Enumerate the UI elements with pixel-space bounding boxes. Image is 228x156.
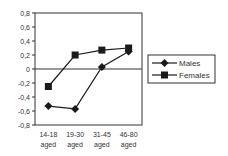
series-females — [45, 45, 132, 91]
line-chart: 0,80,60,40,20-0,2-0,4-0,6-0,8 14-18aged1… — [0, 0, 228, 156]
series-males — [44, 48, 132, 113]
y-tick-label: -0,2 — [18, 80, 30, 87]
legend-label: Females — [179, 71, 210, 80]
square-marker — [72, 52, 79, 59]
x-axis: 14-18aged19-30aged31-45aged46-80aged — [39, 131, 137, 149]
y-axis: 0,80,60,40,20-0,2-0,4-0,6-0,8 — [18, 10, 35, 129]
x-tick-label: 14-18 — [39, 131, 57, 138]
series-line — [48, 52, 128, 109]
square-marker — [125, 45, 132, 52]
y-tick-label: 0,8 — [20, 10, 30, 17]
legend-square-icon — [161, 72, 168, 79]
square-marker — [98, 47, 105, 54]
y-tick-label: 0,4 — [20, 38, 30, 45]
x-tick-sublabel: aged — [41, 141, 57, 149]
x-tick-label: 46-80 — [120, 131, 138, 138]
y-tick-label: 0,2 — [20, 52, 30, 59]
x-tick-sublabel: aged — [67, 141, 83, 149]
legend-label: Males — [179, 59, 200, 68]
y-tick-label: -0,8 — [18, 122, 30, 129]
diamond-marker — [98, 63, 106, 71]
y-tick-label: -0,4 — [18, 94, 30, 101]
y-tick-label: -0,6 — [18, 108, 30, 115]
y-tick-label: 0,6 — [20, 24, 30, 31]
x-tick-label: 31-45 — [93, 131, 111, 138]
legend: MalesFemales — [148, 55, 215, 83]
diamond-marker — [71, 105, 79, 113]
x-tick-sublabel: aged — [121, 141, 137, 149]
series-group — [44, 45, 132, 113]
series-line — [48, 48, 128, 87]
y-tick-label: 0 — [26, 66, 30, 73]
plot-area — [35, 13, 142, 125]
x-tick-sublabel: aged — [94, 141, 110, 149]
x-tick-label: 19-30 — [66, 131, 84, 138]
diamond-marker — [44, 102, 52, 110]
square-marker — [45, 83, 52, 90]
